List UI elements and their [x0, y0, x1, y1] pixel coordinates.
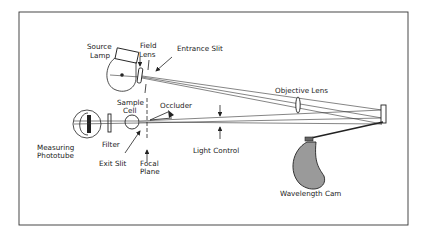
label-measuring-phototube-2: Phototube	[37, 151, 74, 160]
wavelength-cam-icon	[293, 142, 325, 189]
label-objective-lens: Objective Lens	[275, 86, 328, 95]
entrance-slit-arrow	[156, 57, 172, 71]
label-field-lens-2: Lens	[139, 50, 156, 59]
label-focal-plane-2: Plane	[140, 167, 160, 176]
label-exit-slit: Exit Slit	[99, 159, 126, 168]
label-sample-cell-2: Cell	[123, 106, 136, 115]
field-lens-icon	[137, 68, 143, 83]
cam-linkage	[311, 122, 383, 138]
entrance-slit-icon	[148, 60, 149, 70]
light-beams	[140, 76, 382, 124]
label-filter: Filter	[102, 140, 120, 149]
label-wavelength-cam: Wavelength Cam	[280, 189, 341, 198]
label-field-lens-1: Field	[140, 41, 157, 50]
exit-slit-arrow	[125, 131, 140, 153]
label-entrance-slit: Entrance Slit	[177, 44, 223, 53]
label-light-control: Light Control	[193, 146, 239, 155]
label-source-lamp-1: Source	[87, 42, 112, 51]
spectrophotometer-diagram: Source Lamp Field Lens Entrance Slit Obj…	[0, 0, 426, 237]
sample-cell-icon	[125, 115, 139, 129]
objective-lens-icon	[296, 97, 300, 113]
label-occluder: Occluder	[160, 101, 192, 110]
grating-mirror-icon	[381, 105, 386, 123]
label-source-lamp-2: Lamp	[90, 51, 110, 60]
source-lamp-icon	[107, 48, 140, 91]
occluder-icon	[150, 110, 174, 120]
filter-icon	[108, 114, 111, 132]
